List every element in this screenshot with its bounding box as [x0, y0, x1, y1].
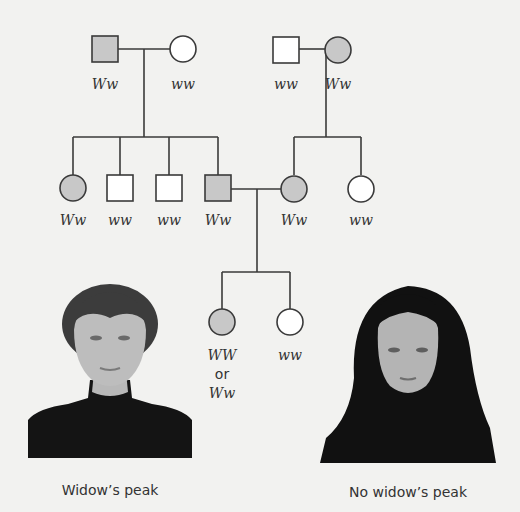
portrait-illustration — [320, 278, 496, 463]
genotype-or-label: or — [215, 366, 230, 382]
photo-widows-peak — [28, 280, 192, 458]
affected-male-symbol — [205, 175, 231, 201]
unaffected-female-symbol — [277, 309, 303, 335]
unaffected-male-symbol — [107, 175, 133, 201]
genotype-label: ww — [108, 212, 132, 228]
genotype-label: WW — [208, 347, 238, 363]
unaffected-female-symbol — [348, 176, 374, 202]
genotype-label: ww — [157, 212, 181, 228]
genotype-label: Ww — [205, 212, 231, 228]
genotype-label: Ww — [325, 76, 351, 92]
genotype-label: ww — [274, 76, 298, 92]
affected-female-symbol — [209, 309, 235, 335]
unaffected-male-symbol — [156, 175, 182, 201]
genotype-label: Ww — [92, 76, 118, 92]
affected-male-symbol — [92, 36, 118, 62]
genotype-label: ww — [349, 212, 373, 228]
photo-no-widows-peak — [320, 278, 496, 463]
unaffected-female-symbol — [170, 36, 196, 62]
affected-female-symbol — [325, 37, 351, 63]
genotype-label: Ww — [209, 385, 235, 401]
caption-no-widows-peak: No widow’s peak — [320, 484, 496, 500]
unaffected-male-symbol — [273, 37, 299, 63]
genotype-label: ww — [278, 347, 302, 363]
genotype-label: Ww — [60, 212, 86, 228]
genotype-label: Ww — [281, 212, 307, 228]
genotype-label: ww — [171, 76, 195, 92]
portrait-illustration — [28, 280, 192, 458]
caption-widows-peak: Widow’s peak — [28, 482, 192, 498]
affected-female-symbol — [60, 175, 86, 201]
affected-female-symbol — [281, 176, 307, 202]
